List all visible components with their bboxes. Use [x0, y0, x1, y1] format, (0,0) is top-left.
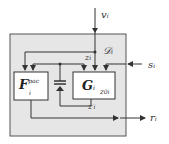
s-input-label: si	[148, 60, 155, 70]
z-prime-label: z′i	[88, 103, 96, 111]
g-port-label: z0i	[100, 89, 109, 96]
f-block-sub: i	[29, 90, 31, 96]
d-label: 𝒟i	[103, 46, 113, 56]
v-entry-arrow-icon	[92, 28, 98, 33]
g-block-label: Gi	[82, 79, 95, 92]
v-input-label: vi	[101, 10, 109, 20]
block-diagram	[0, 0, 169, 144]
r-output-label: ri	[150, 113, 157, 123]
z-label: zi	[85, 54, 91, 62]
